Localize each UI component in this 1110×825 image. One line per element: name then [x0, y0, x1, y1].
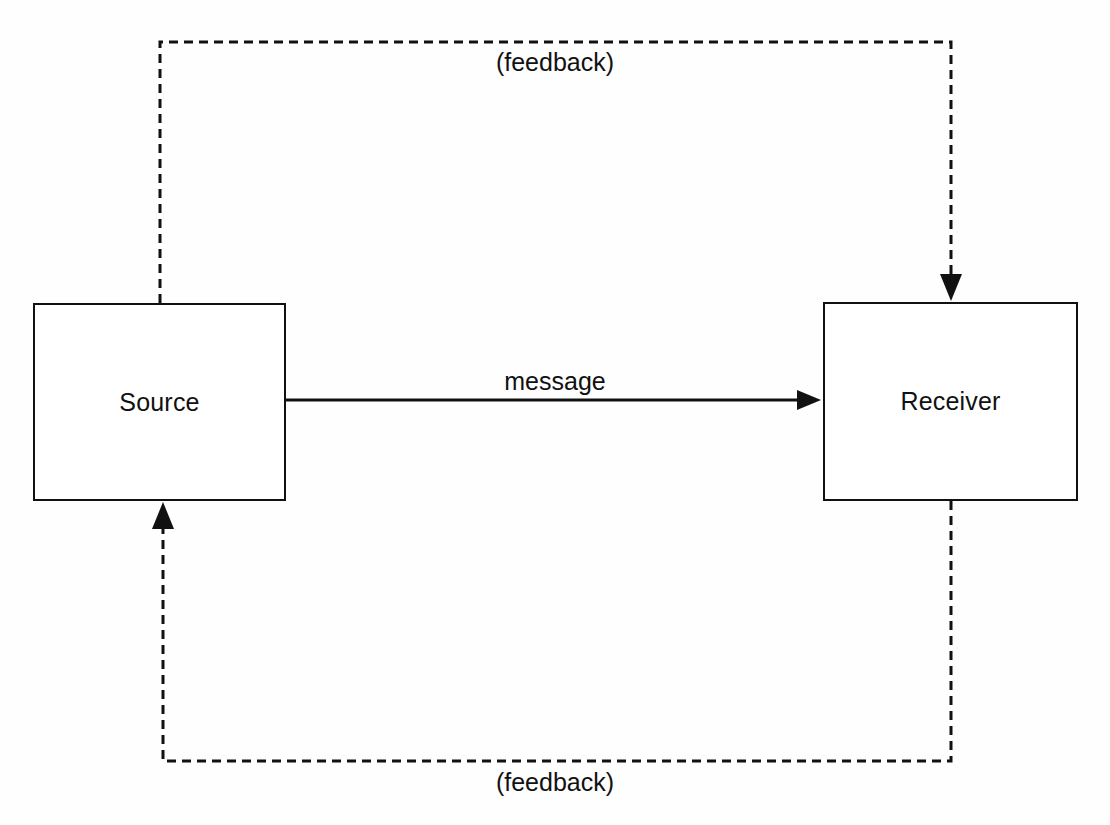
feedback-top-arrowhead-icon: [940, 274, 962, 301]
node-source[interactable]: Source: [33, 303, 286, 501]
feedback-top-line: [160, 42, 951, 303]
edge-feedback-bottom: [152, 501, 951, 761]
edge-label-feedback-bottom: (feedback): [0, 768, 1110, 797]
diagram-canvas: Source Receiver message (feedback) (feed…: [0, 0, 1110, 825]
edge-label-message: message: [0, 367, 1110, 396]
edge-label-feedback-top: (feedback): [0, 48, 1110, 77]
feedback-bottom-line: [163, 501, 951, 761]
node-receiver[interactable]: Receiver: [823, 302, 1078, 501]
edge-feedback-top: [160, 42, 962, 303]
feedback-bottom-arrowhead-icon: [152, 502, 174, 529]
